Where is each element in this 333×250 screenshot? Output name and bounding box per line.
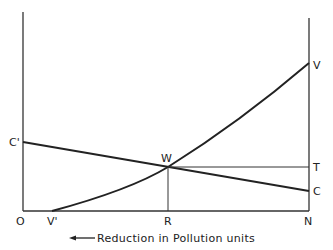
value-curve — [52, 63, 309, 211]
x-axis-caption: Reduction in Pollution units — [97, 232, 255, 245]
label-w: W — [161, 152, 172, 165]
label-r: R — [164, 215, 172, 228]
label-t: T — [312, 161, 320, 174]
label-n: N — [304, 215, 312, 228]
pollution-abatement-diagram: C' W T C V O V' R N Reduction in Polluti… — [0, 0, 333, 250]
left-arrow-icon — [69, 236, 95, 241]
label-v: V — [313, 59, 321, 72]
label-c-prime: C' — [9, 136, 20, 149]
label-v-prime: V' — [47, 215, 58, 228]
label-c: C — [313, 185, 321, 198]
label-origin: O — [16, 215, 25, 228]
